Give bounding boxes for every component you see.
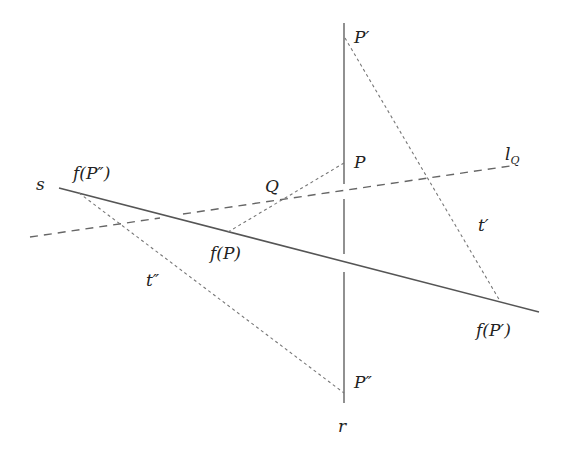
segment-p-fp bbox=[228, 163, 344, 232]
label-f-p-prime: f(P′) bbox=[476, 322, 511, 339]
label-p-prime: P′ bbox=[354, 29, 369, 46]
label-l-q-subscript: Q bbox=[510, 154, 519, 167]
line-t-prime bbox=[345, 38, 500, 301]
label-r: r bbox=[338, 418, 346, 435]
label-l-q: lQ bbox=[505, 146, 519, 163]
label-p-double-prime: P″ bbox=[354, 374, 372, 391]
line-t-double-prime bbox=[79, 193, 344, 393]
label-f-p-double-prime: f(P″) bbox=[73, 165, 110, 182]
label-s: s bbox=[36, 176, 45, 193]
line-s bbox=[59, 188, 539, 312]
label-q: Q bbox=[265, 178, 279, 195]
label-p: P bbox=[354, 154, 365, 171]
label-t-double-prime: t″ bbox=[146, 272, 159, 289]
label-t-prime: t′ bbox=[478, 217, 489, 234]
label-f-p: f(P) bbox=[210, 245, 241, 262]
